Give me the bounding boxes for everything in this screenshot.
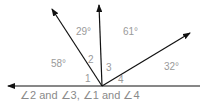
angle-measure-29: 29° [76,27,91,37]
angle-number-1: 1 [85,74,91,84]
angle-number-3: 3 [106,63,112,73]
angle-measure-32: 32° [164,62,179,72]
angle-number-2: 2 [88,55,94,65]
caption: ∠2 and ∠3, ∠1 and ∠4 [20,90,140,101]
angle-number-4: 4 [118,75,124,85]
vertical-ray [99,5,102,86]
upper-left-ray [52,9,102,86]
right-ray [102,33,190,86]
angle-measure-58: 58° [51,59,66,69]
angle-diagram: 58° 29° 61° 32° 1 2 3 4 ∠2 and ∠3, ∠1 an… [0,0,200,107]
angle-measure-61: 61° [123,27,138,37]
